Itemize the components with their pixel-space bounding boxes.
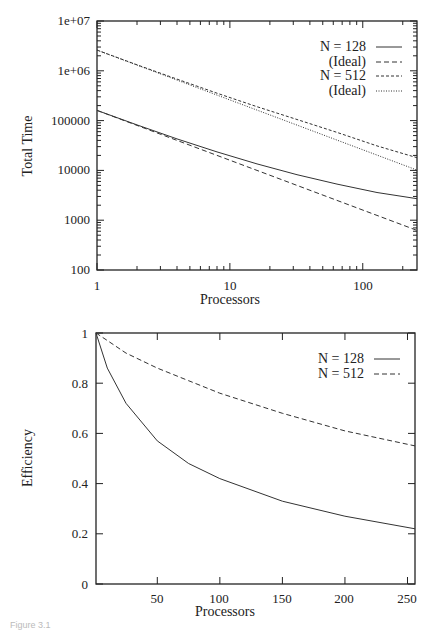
top-ytick-1e4: 10000 <box>58 162 91 177</box>
bottom-legend: N = 128 N = 512 <box>318 351 400 381</box>
bottom-chart: 1 0.8 0.6 0.4 0.2 0 50 100 150 200 250 P… <box>20 326 417 619</box>
series-line <box>96 333 415 446</box>
top-ytick-1e2: 100 <box>71 262 91 277</box>
bottom-yaxis-title: Efficiency <box>20 429 35 487</box>
legend-label-n128: N = 128 <box>318 351 364 366</box>
bottom-xtick-150: 150 <box>272 591 292 606</box>
series-line <box>97 110 417 198</box>
top-ticks <box>97 21 417 270</box>
figure: 1e+07 1e+06 100000 10000 1000 100 1 10 1… <box>0 0 435 635</box>
bottom-ytick-0.8: 0.8 <box>72 376 88 391</box>
bottom-ytick-0: 0 <box>82 577 89 592</box>
bottom-xtick-200: 200 <box>334 591 354 606</box>
series-line <box>97 110 417 230</box>
top-legend: N = 128 (Ideal) N = 512 (Ideal) <box>320 39 402 99</box>
top-yaxis-title: Total Time <box>20 116 35 177</box>
figure-caption: Figure 3.1 <box>10 620 51 630</box>
top-xaxis-title: Processors <box>200 292 260 307</box>
bottom-ytick-0.6: 0.6 <box>72 426 89 441</box>
top-ytick-1e3: 1000 <box>64 212 90 227</box>
bottom-ytick-1: 1 <box>82 326 89 341</box>
bottom-ytick-0.2: 0.2 <box>72 526 88 541</box>
bottom-ticks <box>96 333 415 584</box>
legend-label-n128: N = 128 <box>320 39 366 54</box>
top-plot-frame <box>97 21 417 270</box>
series-line <box>96 333 415 529</box>
bottom-xaxis-title: Processors <box>195 604 255 619</box>
bottom-series <box>96 333 415 529</box>
bottom-plot-frame <box>96 333 415 584</box>
top-xtick-100: 100 <box>353 278 373 293</box>
top-ytick-1e5: 100000 <box>51 113 90 128</box>
legend-label-ideal-512: (Ideal) <box>329 83 367 99</box>
top-chart: 1e+07 1e+06 100000 10000 1000 100 1 10 1… <box>20 13 417 307</box>
top-ytick-1e7: 1e+07 <box>57 13 90 28</box>
top-ytick-1e6: 1e+06 <box>57 63 90 78</box>
top-series <box>97 50 417 230</box>
legend-label-n512: N = 512 <box>320 68 366 83</box>
top-xtick-10: 10 <box>224 278 237 293</box>
bottom-xtick-250: 250 <box>397 591 417 606</box>
bottom-ytick-0.4: 0.4 <box>72 476 89 491</box>
bottom-xtick-50: 50 <box>151 591 164 606</box>
legend-label-n512: N = 512 <box>318 366 364 381</box>
series-line <box>97 50 417 158</box>
top-xtick-1: 1 <box>94 278 101 293</box>
